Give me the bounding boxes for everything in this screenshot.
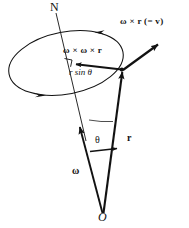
circle-point-marker — [120, 68, 124, 72]
origin-label-O: O — [98, 211, 107, 223]
physics-diagram: N ω × r (= v) ω × ω × r r sin θ θ r ω O — [0, 0, 189, 228]
radius-projection-label: r sin θ — [69, 68, 92, 77]
centripetal-vector-label: ω × ω × r — [63, 46, 102, 55]
angle-label-theta: θ — [95, 135, 100, 145]
velocity-vector — [123, 45, 158, 71]
angular-velocity-label: ω — [72, 166, 79, 176]
axis-label-N: N — [50, 1, 59, 13]
position-vector-label: r — [127, 133, 131, 143]
angle-arc — [89, 120, 113, 122]
rotation-arrowhead-bottom — [35, 93, 46, 97]
position-vector-r — [104, 72, 123, 213]
velocity-vector-label: ω × r (= v) — [120, 17, 163, 26]
rotation-arrowhead-top — [94, 30, 104, 34]
diagram-canvas — [0, 0, 189, 228]
rotation-circle — [3, 22, 129, 105]
